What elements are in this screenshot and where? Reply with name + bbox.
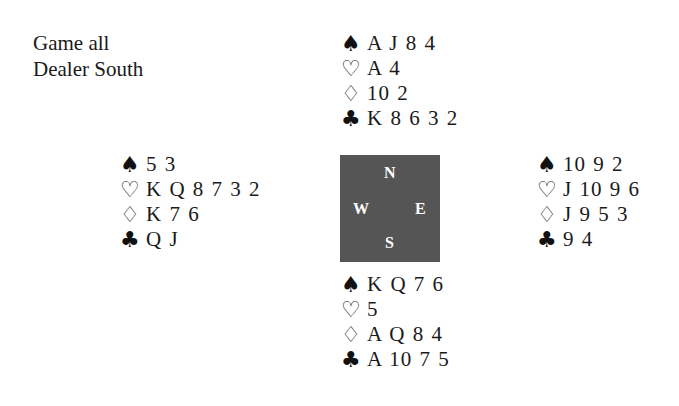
south-spades-row: ♠ K Q 7 6 bbox=[341, 272, 450, 297]
club-icon: ♣ bbox=[537, 227, 563, 252]
vulnerability-label: Game all bbox=[33, 30, 143, 56]
spade-icon: ♠ bbox=[341, 31, 367, 56]
east-spades-cards: 10 9 2 bbox=[563, 152, 624, 177]
spade-icon: ♠ bbox=[341, 272, 367, 297]
diamond-icon: ♢ bbox=[341, 81, 367, 106]
west-clubs-row: ♣ Q J bbox=[120, 227, 261, 252]
east-clubs-cards: 9 4 bbox=[563, 227, 593, 252]
south-clubs-row: ♣ A 10 7 5 bbox=[341, 347, 450, 372]
south-spades-cards: K Q 7 6 bbox=[367, 272, 444, 297]
north-hand: ♠ A J 8 4 ♡ A 4 ♢ 10 2 ♣ K 8 6 3 2 bbox=[341, 31, 458, 131]
south-diamonds-row: ♢ A Q 8 4 bbox=[341, 322, 450, 347]
compass-box: N W E S bbox=[340, 155, 440, 262]
heart-icon: ♡ bbox=[341, 297, 367, 322]
west-diamonds-row: ♢ K 7 6 bbox=[120, 202, 261, 227]
spade-icon: ♠ bbox=[120, 152, 146, 177]
east-diamonds-cards: J 9 5 3 bbox=[563, 202, 628, 227]
west-hearts-row: ♡ K Q 8 7 3 2 bbox=[120, 177, 261, 202]
heart-icon: ♡ bbox=[341, 56, 367, 81]
north-diamonds-row: ♢ 10 2 bbox=[341, 81, 458, 106]
east-spades-row: ♠ 10 9 2 bbox=[537, 152, 640, 177]
compass-west: W bbox=[353, 200, 369, 218]
south-diamonds-cards: A Q 8 4 bbox=[367, 322, 443, 347]
west-spades-cards: 5 3 bbox=[146, 152, 176, 177]
east-hearts-row: ♡ J 10 9 6 bbox=[537, 177, 640, 202]
south-hearts-cards: 5 bbox=[367, 297, 379, 322]
west-hearts-cards: K Q 8 7 3 2 bbox=[146, 177, 261, 202]
club-icon: ♣ bbox=[341, 347, 367, 372]
deal-info: Game all Dealer South bbox=[33, 30, 143, 82]
west-hand: ♠ 5 3 ♡ K Q 8 7 3 2 ♢ K 7 6 ♣ Q J bbox=[120, 152, 261, 252]
dealer-label: Dealer South bbox=[33, 56, 143, 82]
east-diamonds-row: ♢ J 9 5 3 bbox=[537, 202, 640, 227]
west-clubs-cards: Q J bbox=[146, 227, 179, 252]
north-hearts-row: ♡ A 4 bbox=[341, 56, 458, 81]
compass-north: N bbox=[384, 164, 396, 182]
south-clubs-cards: A 10 7 5 bbox=[367, 347, 450, 372]
north-clubs-cards: K 8 6 3 2 bbox=[367, 106, 458, 131]
north-clubs-row: ♣ K 8 6 3 2 bbox=[341, 106, 458, 131]
compass-east: E bbox=[415, 200, 426, 218]
north-spades-row: ♠ A J 8 4 bbox=[341, 31, 458, 56]
north-spades-cards: A J 8 4 bbox=[367, 31, 436, 56]
spade-icon: ♠ bbox=[537, 152, 563, 177]
north-hearts-cards: A 4 bbox=[367, 56, 401, 81]
heart-icon: ♡ bbox=[120, 177, 146, 202]
north-diamonds-cards: 10 2 bbox=[367, 81, 409, 106]
compass-south: S bbox=[385, 234, 394, 252]
east-clubs-row: ♣ 9 4 bbox=[537, 227, 640, 252]
heart-icon: ♡ bbox=[537, 177, 563, 202]
east-hand: ♠ 10 9 2 ♡ J 10 9 6 ♢ J 9 5 3 ♣ 9 4 bbox=[537, 152, 640, 252]
east-hearts-cards: J 10 9 6 bbox=[563, 177, 640, 202]
diamond-icon: ♢ bbox=[341, 322, 367, 347]
west-spades-row: ♠ 5 3 bbox=[120, 152, 261, 177]
south-hand: ♠ K Q 7 6 ♡ 5 ♢ A Q 8 4 ♣ A 10 7 5 bbox=[341, 272, 450, 372]
diamond-icon: ♢ bbox=[537, 202, 563, 227]
diamond-icon: ♢ bbox=[120, 202, 146, 227]
south-hearts-row: ♡ 5 bbox=[341, 297, 450, 322]
club-icon: ♣ bbox=[120, 227, 146, 252]
club-icon: ♣ bbox=[341, 106, 367, 131]
west-diamonds-cards: K 7 6 bbox=[146, 202, 200, 227]
